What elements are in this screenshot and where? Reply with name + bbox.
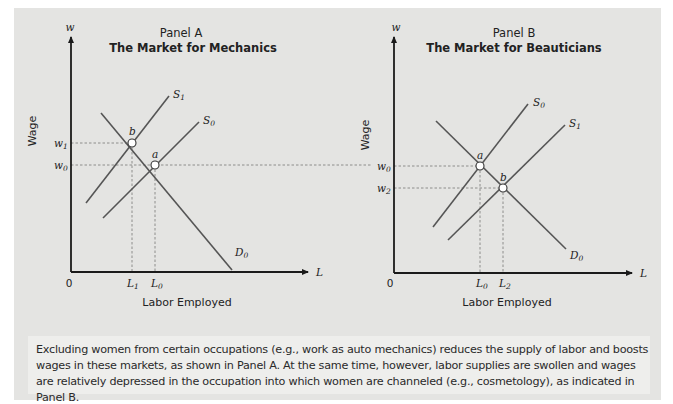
y-axis-symbol: w	[66, 21, 75, 33]
x-axis-label: Labor Employed	[142, 296, 231, 309]
curve-label-d0: D0	[569, 249, 583, 263]
x-axis-symbol: L	[639, 267, 647, 279]
supply-curve-s0	[103, 122, 199, 218]
origin-label: 0	[387, 277, 394, 289]
panel-a-label: Panel A	[160, 26, 203, 40]
curve-label-s1: S1	[173, 88, 185, 102]
panel-b: Panel B The Market for Beauticians w L 0…	[359, 21, 647, 309]
demand-curve-d0	[101, 113, 232, 270]
y-axis-label: Wage	[26, 115, 39, 146]
equilibrium-point-a	[151, 161, 159, 169]
equilibrium-point-b	[128, 139, 136, 147]
tick-l0: L0	[475, 277, 488, 291]
tick-w1: w1	[54, 137, 68, 151]
curve-label-s0: S0	[203, 114, 215, 128]
figure-caption: Excluding women from certain occupations…	[36, 342, 651, 404]
y-axis-symbol: w	[392, 21, 401, 33]
curve-label-s0: S0	[533, 96, 545, 110]
x-axis-label: Labor Employed	[462, 296, 551, 309]
x-axis-symbol: L	[315, 266, 323, 278]
tick-w0: w0	[377, 160, 391, 174]
equilibrium-point-a	[476, 162, 484, 170]
curve-label-s1: S1	[569, 117, 581, 131]
equilibrium-point-b	[499, 184, 507, 192]
point-label-b: b	[129, 125, 136, 137]
point-label-b: b	[500, 171, 507, 183]
panel-b-label: Panel B	[493, 26, 536, 40]
origin-label: 0	[66, 277, 73, 289]
panel-a-title: The Market for Mechanics	[109, 41, 277, 55]
y-axis-label: Wage	[359, 119, 372, 150]
point-label-a: a	[152, 148, 158, 160]
tick-l0: L0	[150, 277, 163, 291]
tick-w2: w2	[377, 182, 391, 196]
tick-l2: L2	[498, 277, 511, 291]
point-label-a: a	[477, 149, 483, 161]
tick-w0: w0	[54, 159, 68, 173]
tick-l1: L1	[126, 277, 139, 291]
curve-label-d0: D0	[234, 246, 248, 260]
panel-b-title: The Market for Beauticians	[426, 41, 602, 55]
panel-a: Panel A The Market for Mechanics w L 0 W…	[26, 21, 372, 309]
